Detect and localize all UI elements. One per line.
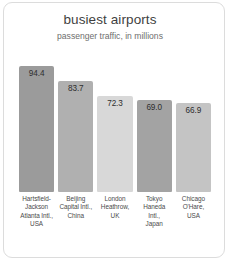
chart-card: busiest airports passenger traffic, in m… (3, 2, 225, 258)
bar: 83.7 (58, 81, 93, 192)
bar-chart-plot-area: 94.483.772.369.066.9 (19, 59, 211, 192)
chart-header: busiest airports passenger traffic, in m… (4, 12, 216, 42)
bar-column: 94.4 (19, 59, 54, 192)
bar: 69.0 (137, 100, 172, 192)
bar-column: 72.3 (97, 59, 132, 192)
bar-value-label: 69.0 (137, 103, 172, 113)
bar-column: 83.7 (58, 59, 93, 192)
bar: 66.9 (176, 103, 211, 192)
x-axis-label-line: USA (13, 220, 60, 228)
x-axis-label-line: O'Hare, (170, 203, 217, 211)
bar: 72.3 (97, 96, 132, 192)
bar-column: 66.9 (176, 59, 211, 192)
chart-title: busiest airports (4, 12, 216, 28)
x-axis-label-line: USA (170, 212, 217, 220)
bar-value-label: 66.9 (176, 106, 211, 116)
x-axis-label-line: Chicago (170, 195, 217, 203)
x-axis-label-line: Japan (131, 220, 178, 228)
bar: 94.4 (19, 66, 54, 192)
bar-column: 69.0 (137, 59, 172, 192)
bar-value-label: 72.3 (97, 99, 132, 109)
x-axis-label: ChicagoO'Hare,USA (170, 195, 217, 220)
bar-value-label: 83.7 (58, 84, 93, 94)
bar-value-label: 94.4 (19, 69, 54, 79)
chart-subtitle: passenger traffic, in millions (4, 30, 216, 42)
x-axis-labels: Hartsfield-JacksonAtlanta Intl.,USABeiji… (19, 195, 211, 253)
